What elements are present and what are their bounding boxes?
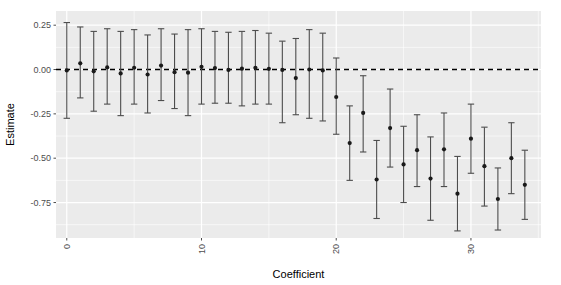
data-point xyxy=(146,72,150,76)
data-point xyxy=(334,95,338,99)
data-point xyxy=(213,66,217,70)
data-point xyxy=(294,76,298,80)
coefficient-estimate-plot: 0.250.00-0.25-0.50-0.750102030Coefficien… xyxy=(0,0,561,285)
y-axis-tick-label: -0.50 xyxy=(30,153,51,163)
y-axis-title: Estimate xyxy=(4,103,16,146)
data-point xyxy=(186,71,190,75)
data-point xyxy=(361,111,365,115)
data-point xyxy=(496,197,500,201)
y-axis-tick-label: -0.25 xyxy=(30,109,51,119)
data-point xyxy=(415,148,419,152)
panel-background xyxy=(56,11,541,238)
data-point xyxy=(65,68,69,72)
data-point xyxy=(469,137,473,141)
data-point xyxy=(280,68,284,72)
data-point xyxy=(523,183,527,187)
plot-canvas: 0.250.00-0.25-0.50-0.750102030Coefficien… xyxy=(0,0,561,285)
data-point xyxy=(509,156,513,160)
data-point xyxy=(92,69,96,73)
data-point xyxy=(78,61,82,65)
data-point xyxy=(401,162,405,166)
data-point xyxy=(321,68,325,72)
x-axis-tick-label: 20 xyxy=(331,244,341,254)
data-point xyxy=(428,176,432,180)
x-axis-title: Coefficient xyxy=(273,268,325,280)
data-point xyxy=(307,67,311,71)
data-point xyxy=(267,67,271,71)
data-point xyxy=(375,177,379,181)
data-point xyxy=(442,147,446,151)
data-point xyxy=(199,65,203,69)
data-point xyxy=(253,66,257,70)
data-point xyxy=(482,164,486,168)
data-point xyxy=(348,141,352,145)
data-point xyxy=(119,71,123,75)
y-axis-tick-label: 0.00 xyxy=(33,65,51,75)
data-point xyxy=(240,67,244,71)
y-axis-tick-label: -0.75 xyxy=(30,198,51,208)
x-axis-tick-label: 10 xyxy=(197,244,207,254)
data-point xyxy=(455,192,459,196)
x-axis-tick-label: 30 xyxy=(466,244,476,254)
data-point xyxy=(105,65,109,69)
data-point xyxy=(159,64,163,68)
data-point xyxy=(172,70,176,74)
y-axis-tick-label: 0.25 xyxy=(33,20,51,30)
data-point xyxy=(132,66,136,70)
x-axis-tick-label: 0 xyxy=(62,244,72,249)
data-point xyxy=(388,126,392,130)
data-point xyxy=(226,68,230,72)
